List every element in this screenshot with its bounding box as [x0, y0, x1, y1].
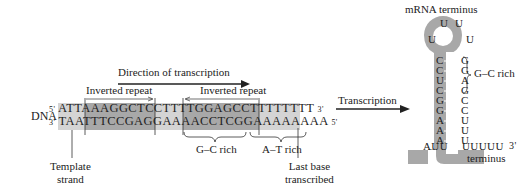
terminus-label: terminus — [467, 152, 506, 164]
gc-rich-label: G–C rich — [196, 143, 237, 155]
hairpin-title: mRNA terminus — [405, 3, 477, 15]
loop-base: U — [440, 17, 448, 29]
bottom-seq-0: TAA — [59, 114, 84, 128]
top-seq-2: TTTT — [163, 101, 195, 115]
transcription-label: Transcription — [338, 94, 397, 106]
direction-label: Direction of transcription — [118, 66, 230, 78]
loop-base: U — [466, 33, 474, 45]
bottom-seq-4: AAAAA — [281, 114, 327, 128]
bottom-strand-3prime: 3' — [49, 118, 55, 127]
top-seq-1: AAAGGCTCC — [81, 101, 162, 115]
top-seq-4: TTTTT — [274, 101, 314, 115]
last-base-label: Last base transcribed — [285, 160, 334, 186]
gc-rich-brace — [184, 132, 246, 142]
top-strand-5prime: 5' — [49, 105, 55, 114]
template-strand-line1: Template — [50, 160, 91, 173]
top-seq-3: GGAGCCTTT — [195, 101, 274, 115]
bottom-seq-1: TTTCCGAGG — [83, 114, 162, 128]
at-rich-label: A–T rich — [262, 143, 302, 155]
top-strand-3prime: 3' — [318, 105, 324, 114]
hairpin-3prime: 3' — [509, 140, 517, 151]
bottom-seq-3: CCTCGGAAA — [200, 114, 281, 128]
loop-base: U — [428, 33, 436, 45]
transcription-arrowhead — [400, 105, 410, 113]
inverted-repeat-left-label: Inverted repeat — [86, 84, 152, 96]
inverted-repeat-right-label: Inverted repeat — [200, 84, 266, 96]
bottom-seq-2: AAAA — [162, 114, 200, 128]
bottom-strand: 3' TAATTTCCGAGGAAAACCTCGGAAAAAAAA 5' — [49, 114, 338, 129]
top-seq-0: ATT — [58, 101, 81, 115]
template-strand-label: Template strand — [50, 160, 91, 186]
hairpin-gap — [446, 52, 458, 154]
template-strand-line2: strand — [50, 173, 91, 186]
last-base-line1: Last base — [285, 160, 334, 173]
hairpin-gc-rich-label: G–C rich — [474, 67, 515, 79]
left-tail: AUU — [423, 140, 448, 152]
bottom-strand-5prime: 5' — [331, 118, 337, 127]
right-tail: UUUUU — [462, 140, 504, 152]
loop-base: U — [455, 17, 463, 29]
last-base-line2: transcribed — [285, 173, 334, 186]
